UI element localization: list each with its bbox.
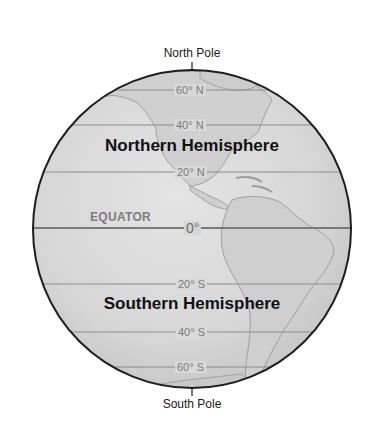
latitude-label-60s: 60° S — [175, 361, 206, 373]
equator-label: EQUATOR — [90, 210, 151, 224]
latitude-label-20n: 20° N — [175, 166, 207, 178]
latitude-label-40s: 40° S — [176, 326, 207, 338]
latitude-label-20s: 20° S — [176, 278, 207, 290]
south-pole-label: South Pole — [142, 397, 242, 411]
southern-hemisphere-label: Southern Hemisphere — [62, 294, 322, 314]
latitude-label-40n: 40° N — [174, 119, 206, 131]
latitude-label-60n: 60° N — [174, 84, 206, 96]
northern-hemisphere-label: Northern Hemisphere — [62, 136, 322, 156]
equator-degree-label: 0° — [184, 221, 201, 235]
north-pole-label: North Pole — [142, 46, 242, 60]
